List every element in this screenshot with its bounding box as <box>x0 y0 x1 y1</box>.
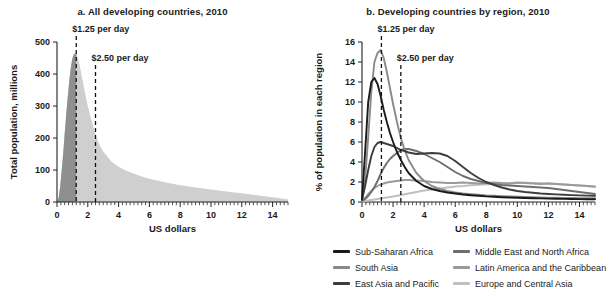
panel-b-x-axis-title: US dollars <box>455 223 502 234</box>
legend-item-label: Middle East and North Africa <box>475 247 589 257</box>
panel-a-x-ticklabel: 2 <box>85 210 90 220</box>
panel-a-x-ticklabel: 10 <box>206 210 216 220</box>
panel-a-y-ticklabel: 0 <box>45 197 50 207</box>
series-line-middle-east-and-north-africa <box>362 149 595 201</box>
legend-swatch-icon <box>333 282 350 285</box>
area-fill-below-1-25 <box>57 53 76 202</box>
panel-b-x-ticklabel: 2 <box>391 210 396 220</box>
panel-a-plot: 010020030040050002468101214US dollarsTot… <box>0 0 305 240</box>
panel-b-y-ticklabel: 4 <box>350 157 355 167</box>
legend-item: Latin America and the Caribbean <box>453 260 606 275</box>
panel-b-title: b. Developing countries by region, 2010 <box>305 6 611 17</box>
legend: Sub-Saharan AfricaMiddle East and North … <box>0 240 611 296</box>
panel-b-y-axis-title: % of population in each region <box>313 53 324 191</box>
panel-a-x-ticklabel: 14 <box>268 210 278 220</box>
panel-a-x-ticklabel: 8 <box>178 210 183 220</box>
panel-a-x-ticklabel: 4 <box>116 210 121 220</box>
legend-item: Middle East and North Africa <box>453 244 606 259</box>
panel-a-y-ticklabel: 400 <box>35 69 50 79</box>
panel-b: b. Developing countries by region, 2010 … <box>305 0 611 240</box>
legend-swatch-icon <box>453 282 470 285</box>
panel-a-title: a. All developing countries, 2010 <box>0 6 305 17</box>
legend-item-label: Latin America and the Caribbean <box>475 263 606 273</box>
legend-item: South Asia <box>333 260 439 275</box>
panel-b-x-ticklabel: 8 <box>484 210 489 220</box>
panel-a-y-ticklabel: 500 <box>35 37 50 47</box>
figure-container: a. All developing countries, 2010 010020… <box>0 0 611 296</box>
panel-b-y-ticklabel: 6 <box>350 137 355 147</box>
panel-a-y-ticklabel: 100 <box>35 165 50 175</box>
panel-a-y-axis-title: Total population, millions <box>8 65 19 179</box>
panel-b-y-ticklabel: 16 <box>345 37 355 47</box>
panel-b-annotation-2-50: $2.50 per day <box>397 53 454 63</box>
panel-b-x-ticklabel: 0 <box>359 210 364 220</box>
legend-item-label: Sub-Saharan Africa <box>355 247 433 257</box>
panel-a: a. All developing countries, 2010 010020… <box>0 0 305 240</box>
panel-b-y-ticklabel: 2 <box>350 177 355 187</box>
panel-a-y-ticklabel: 300 <box>35 101 50 111</box>
legend-items: Sub-Saharan AfricaMiddle East and North … <box>333 244 606 291</box>
panel-a-x-ticklabel: 0 <box>54 210 59 220</box>
panel-a-x-axis-title: US dollars <box>149 223 196 234</box>
panel-a-annotation-1-25: $1.25 per day <box>72 24 129 34</box>
panel-b-y-ticklabel: 12 <box>345 77 355 87</box>
panel-b-y-ticklabel: 0 <box>350 197 355 207</box>
panel-a-y-ticklabel: 200 <box>35 133 50 143</box>
legend-swatch-icon <box>453 250 470 253</box>
panel-a-annotation-2-50: $2.50 per day <box>92 53 149 63</box>
legend-swatch-icon <box>333 266 350 269</box>
panel-b-annotation-1-25: $1.25 per day <box>377 24 434 34</box>
legend-swatch-icon <box>453 266 470 269</box>
legend-item-label: South Asia <box>355 263 398 273</box>
panel-b-y-ticklabel: 8 <box>350 117 355 127</box>
panel-b-y-ticklabel: 14 <box>345 57 355 67</box>
area-fill-above-1-25 <box>76 54 288 202</box>
panel-b-x-ticklabel: 12 <box>543 210 553 220</box>
legend-item: Sub-Saharan Africa <box>333 244 439 259</box>
legend-item: Europe and Central Asia <box>453 276 606 291</box>
panel-b-y-ticklabel: 10 <box>345 97 355 107</box>
panel-b-plot: 024681012141602468101214US dollars% of p… <box>305 0 611 240</box>
panel-a-x-ticklabel: 6 <box>147 210 152 220</box>
panel-b-x-ticklabel: 6 <box>453 210 458 220</box>
legend-item-label: East Asia and Pacific <box>355 279 439 289</box>
panel-b-x-ticklabel: 14 <box>574 210 584 220</box>
panel-a-x-ticklabel: 12 <box>237 210 247 220</box>
panel-b-x-ticklabel: 10 <box>512 210 522 220</box>
legend-item-label: Europe and Central Asia <box>475 279 573 289</box>
legend-swatch-icon <box>333 250 350 253</box>
panel-b-x-ticklabel: 4 <box>422 210 427 220</box>
legend-item: East Asia and Pacific <box>333 276 439 291</box>
